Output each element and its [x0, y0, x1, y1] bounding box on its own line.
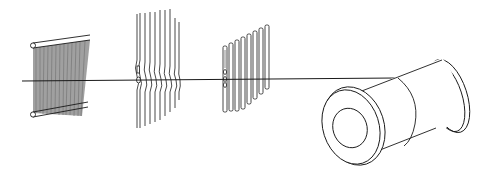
- heddle-strips: [223, 25, 269, 112]
- beam-spool: [313, 54, 478, 173]
- heddle-wires: [136, 9, 181, 128]
- diagram-canvas: [0, 0, 483, 182]
- strip-eye-lower: [223, 83, 226, 88]
- warp-frame: [31, 35, 91, 117]
- weaving-diagram: [0, 0, 483, 182]
- heddle-eye: [137, 66, 140, 73]
- strip-eye-upper: [223, 70, 226, 75]
